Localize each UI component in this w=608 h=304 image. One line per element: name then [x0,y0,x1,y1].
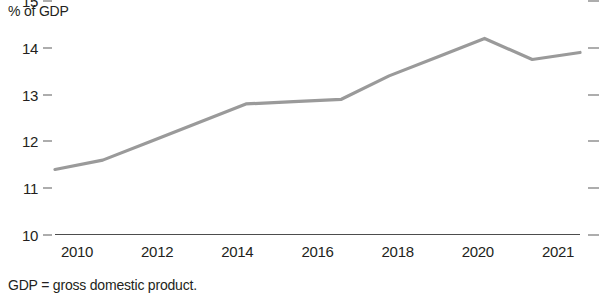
x-axis-tick-label: 2021 [542,243,574,260]
x-axis-tick-label: 2018 [382,243,414,260]
x-axis-tick-label: 2016 [301,243,333,260]
x-axis-end-mark [588,235,599,236]
y-axis-tick-label: 11 [8,180,38,197]
x-axis-tick-label: 2012 [141,243,173,260]
chart-figure: % of GDP GDP = gross domestic product. 1… [0,0,608,304]
y-axis-tick-mark [43,235,52,236]
x-axis-tick-label: 2014 [221,243,253,260]
x-axis-tick-label: 2010 [61,243,93,260]
y-axis-tick-mark [43,1,52,2]
y-axis-tick-label: 14 [8,39,38,56]
y-axis-tick-mark [43,188,52,189]
y-axis-tick-mark-right [588,141,599,142]
y-axis-tick-label: 10 [8,227,38,244]
y-axis-tick-mark-right [588,188,599,189]
y-axis-tick-mark-right [588,94,599,95]
y-axis-tick-mark [43,47,52,48]
plot-area [55,30,580,235]
x-axis-tick-label: 2020 [462,243,494,260]
y-axis-tick-mark [43,94,52,95]
series-line [55,38,580,169]
y-axis-tick-label: 15 [8,0,38,10]
y-axis-tick-label: 12 [8,133,38,150]
y-axis-tick-mark [43,141,52,142]
y-axis-tick-mark-right [588,1,599,2]
y-axis-tick-mark-right [588,47,599,48]
y-axis-tick-label: 13 [8,86,38,103]
footnote: GDP = gross domestic product. [8,277,197,293]
line-series-svg [55,30,580,235]
